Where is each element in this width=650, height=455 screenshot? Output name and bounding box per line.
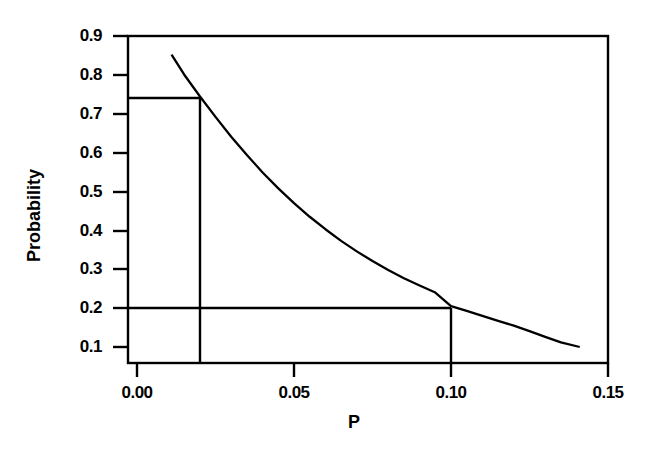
x-tick-label-3: 0.15 [568,383,648,403]
y-axis-ticks [113,36,128,347]
x-tick-label-1: 0.05 [254,383,334,403]
y-tick-label-0: 0.9 [36,26,102,46]
x-axis-title: P [348,412,360,433]
y-tick-label-5: 0.4 [36,221,102,241]
y-tick-label-7: 0.2 [36,298,102,318]
y-tick-label-6: 0.3 [36,259,102,279]
lower-reference-line [128,308,451,363]
y-axis-title: Probability [24,169,45,262]
y-tick-label-3: 0.6 [36,143,102,163]
y-tick-label-2: 0.7 [36,104,102,124]
x-tick-label-2: 0.10 [411,383,491,403]
upper-reference-line [128,98,200,363]
y-tick-label-4: 0.5 [36,182,102,202]
x-tick-label-0: 0.00 [97,383,177,403]
probability-curve [172,55,580,347]
y-tick-label-1: 0.8 [36,65,102,85]
probability-vs-p-chart: 0.9 0.8 0.7 0.6 0.5 0.4 0.3 0.2 0.1 0.00… [0,0,650,455]
y-tick-label-8: 0.1 [36,337,102,357]
x-axis-ticks [137,363,608,377]
